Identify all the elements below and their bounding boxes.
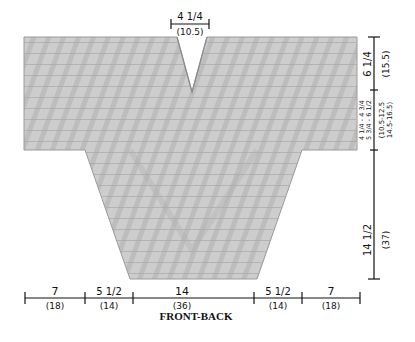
lower-height-cm: (37) bbox=[381, 231, 391, 249]
garment-shape bbox=[24, 37, 357, 279]
side-dimension-line: 6 1/4 (15.5) 4 1/4 - 4 3/4 5 3/4 - 6 1/2… bbox=[358, 37, 394, 279]
dim-5-cm: (18) bbox=[322, 301, 340, 311]
dim-3-inches: 14 bbox=[175, 285, 189, 298]
middle-height-cm-1: (10.5-12.5 bbox=[378, 102, 386, 138]
neck-width-inches: 4 1/4 bbox=[177, 11, 203, 22]
dim-1-cm: (18) bbox=[46, 301, 64, 311]
bottom-dimension-line: 7 (18) 5 1/2 (14) 14 (36) 5 1/2 (14) 7 (… bbox=[25, 285, 360, 322]
schematic-diagram: 4 1/4 (10.5) 7 (18) 5 1/2 (14) 14 (36) 5… bbox=[0, 0, 415, 342]
diagram-caption: FRONT-BACK bbox=[160, 310, 233, 322]
neck-width-cm: (10.5) bbox=[176, 27, 203, 37]
lower-height-inches: 14 1/2 bbox=[362, 224, 373, 256]
dim-4-cm: (14) bbox=[269, 301, 287, 311]
middle-height-cm-2: 14.5-16.5) bbox=[386, 102, 394, 139]
dim-5-inches: 7 bbox=[328, 285, 335, 298]
upper-height-cm: (15.5) bbox=[381, 50, 391, 77]
neck-dimension: 4 1/4 (10.5) bbox=[171, 11, 209, 37]
dim-1-inches: 7 bbox=[52, 285, 59, 298]
upper-height-inches: 6 1/4 bbox=[362, 51, 373, 77]
dim-4-inches: 5 1/2 bbox=[265, 286, 291, 297]
dim-2-cm: (14) bbox=[100, 301, 118, 311]
middle-height-inches-2: 5 3/4 - 6 1/2 bbox=[365, 100, 373, 140]
dim-2-inches: 5 1/2 bbox=[96, 286, 122, 297]
